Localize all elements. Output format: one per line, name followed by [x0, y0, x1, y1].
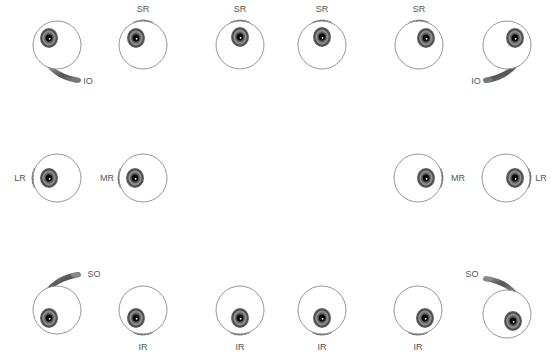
eyeball-outline — [394, 286, 442, 334]
pupil-icon — [132, 175, 138, 181]
muscle-label-sr: SR — [137, 4, 150, 14]
muscle-label-ir: IR — [318, 342, 328, 352]
eye-r3c6 — [483, 276, 531, 338]
eye-r2c3 — [394, 154, 444, 202]
eye-r3c3 — [216, 286, 264, 336]
muscle-label-ir: IR — [414, 342, 424, 352]
pupil-icon — [422, 315, 428, 321]
muscle-label-so: SO — [87, 269, 100, 279]
eye-r2c2 — [118, 154, 168, 202]
muscle-label-sr: SR — [234, 4, 247, 14]
muscle-label-lr: LR — [14, 173, 26, 183]
eye-r1c6 — [483, 21, 531, 83]
pupil-icon — [512, 35, 518, 41]
eyeball-outline — [33, 21, 81, 69]
muscle-label-ir: IR — [139, 342, 149, 352]
eyeball-outline — [119, 286, 167, 334]
pupil-icon — [319, 34, 325, 40]
muscle-label-lr: LR — [535, 173, 547, 183]
eyeball-outline — [483, 21, 531, 69]
eye-r1c1 — [33, 21, 81, 83]
pupil-icon — [512, 175, 518, 181]
eye-r1c3 — [216, 20, 264, 70]
pupil-icon — [46, 315, 52, 321]
eye-muscle-diagram: IOSRSRSRSRIOLRMRMRLRSOIRIRIRIRSO — [0, 0, 557, 357]
pupil-icon — [46, 35, 52, 41]
pupil-icon — [46, 175, 52, 181]
pupil-icon — [423, 35, 429, 41]
pupil-icon — [510, 318, 516, 324]
pupil-icon — [319, 315, 325, 321]
eye-r3c2 — [119, 286, 167, 336]
pupil-icon — [133, 35, 139, 41]
pupil-icon — [423, 175, 429, 181]
muscle-label-io: IO — [83, 76, 93, 86]
pupil-icon — [237, 315, 243, 321]
muscle-label-ir: IR — [236, 342, 246, 352]
eye-r2c1 — [32, 154, 82, 202]
eyeball-outline — [33, 286, 81, 334]
eye-r3c4 — [298, 286, 346, 336]
pupil-icon — [237, 34, 243, 40]
eye-r1c2 — [119, 20, 167, 70]
eyeball-outline — [119, 21, 167, 69]
muscle-label-mr: MR — [451, 173, 465, 183]
muscle-label-sr: SR — [316, 4, 329, 14]
eye-r3c1 — [33, 272, 81, 334]
eyeball-outline — [395, 21, 443, 69]
muscle-label-mr: MR — [100, 173, 114, 183]
eye-r3c5 — [394, 286, 442, 336]
muscle-label-so: SO — [465, 269, 478, 279]
eye-r1c5 — [395, 20, 443, 70]
eye-r1c4 — [298, 20, 346, 70]
eye-r2c4 — [482, 154, 532, 202]
pupil-icon — [133, 315, 139, 321]
muscle-label-sr: SR — [413, 4, 426, 14]
muscle-label-io: IO — [471, 76, 481, 86]
